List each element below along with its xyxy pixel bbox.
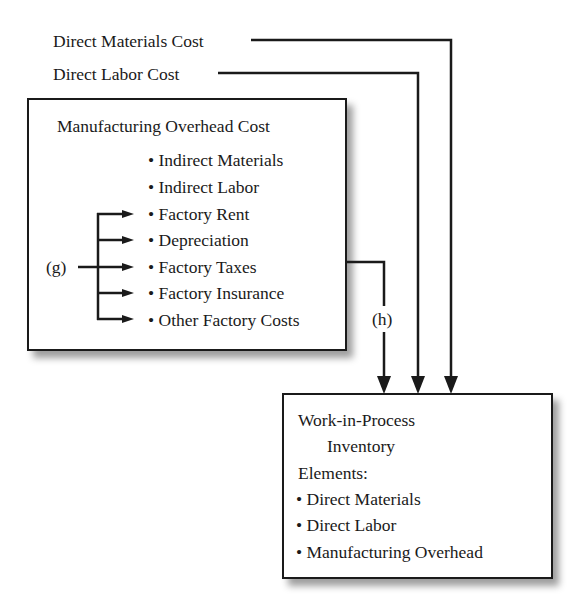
wip-element-direct-materials: • Direct Materials xyxy=(296,489,421,509)
overhead-item-factory-insurance: • Factory Insurance xyxy=(148,283,284,303)
arrow-right-icon xyxy=(122,210,134,218)
arrow-down-icon xyxy=(377,376,391,394)
arrow-right-icon xyxy=(122,263,134,271)
label-h: (h) xyxy=(372,309,392,329)
arrow-right-icon xyxy=(122,236,134,244)
wip-elements-heading: Elements: xyxy=(298,463,368,483)
wip-element-manufacturing-overhead: • Manufacturing Overhead xyxy=(296,542,483,562)
overhead-item-indirect-materials: • Indirect Materials xyxy=(148,150,283,170)
direct-materials-cost-label: Direct Materials Cost xyxy=(53,31,204,51)
wip-title-line2: Inventory xyxy=(327,436,395,456)
arrow-right-icon xyxy=(122,289,134,297)
overhead-item-depreciation: • Depreciation xyxy=(148,230,249,250)
direct-materials-connector xyxy=(251,40,458,394)
direct-labor-cost-label: Direct Labor Cost xyxy=(53,64,179,84)
label-g: (g) xyxy=(46,257,66,277)
overhead-item-factory-taxes: • Factory Taxes xyxy=(148,257,257,277)
overhead-item-indirect-labor: • Indirect Labor xyxy=(148,177,259,197)
arrow-down-icon xyxy=(411,376,425,394)
overhead-item-factory-rent: • Factory Rent xyxy=(148,204,249,224)
arrow-right-icon xyxy=(122,315,134,323)
wip-element-direct-labor: • Direct Labor xyxy=(296,515,396,535)
arrow-down-icon xyxy=(444,376,458,394)
overhead-item-other-factory-costs: • Other Factory Costs xyxy=(148,310,299,330)
g-bracket-connector xyxy=(78,210,134,323)
wip-title-line1: Work-in-Process xyxy=(298,410,415,430)
flow-connectors xyxy=(0,0,584,611)
overhead-title: Manufacturing Overhead Cost xyxy=(57,116,270,136)
